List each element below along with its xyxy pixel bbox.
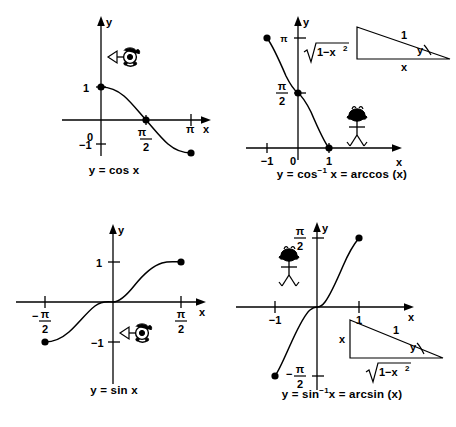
cos-point-pi2-0 (142, 116, 149, 123)
sin-ytick-1-label: 1 (96, 257, 102, 269)
arcsin-point-neg1-neg-pi2 (271, 372, 278, 379)
caption-sin: y = sin x (0, 384, 228, 396)
sin-x-axis-label: x (199, 306, 206, 318)
cos-point-0-1 (97, 83, 104, 90)
caption-arcsin-main: y = sin (282, 388, 320, 400)
cos-y-axis-label: y (106, 16, 113, 28)
arccos-triangle-hypotenuse-label: 1 (401, 29, 407, 41)
reclining-person-icon (120, 324, 152, 342)
arcsin-point-1-pi2 (355, 234, 362, 241)
standing-person-icon (279, 247, 299, 286)
plot-panel-cos: y x 0 1 −1 π 2 π (0, 0, 228, 214)
arccos-ytick-pi-numerator: π (278, 80, 287, 92)
arcsin-ytick-pi-numerator: π (296, 225, 305, 237)
cos-ytick-1-label: 1 (83, 82, 89, 94)
reclining-person-icon (108, 48, 140, 66)
arccos-sqrt-exponent: 2 (343, 44, 348, 53)
arcsin-triangle-hypotenuse-label: 1 (393, 324, 399, 336)
cos-plot-svg: y x 0 1 −1 π 2 π (0, 0, 228, 214)
arccos-ytick-pi-over-2-label: π 2 (276, 80, 288, 107)
arcsin-x-axis (236, 303, 414, 311)
arcsin-ytick-neg-pi-numerator: π (296, 363, 305, 375)
cos-xtick-pi-numerator: π (138, 126, 147, 138)
caption-cos: y = cos x (0, 164, 228, 176)
arcsin-xtick-neg1-label: −1 (269, 314, 282, 326)
arcsin-triangle-angle-label: y (410, 341, 417, 353)
caption-arccos-exponent: −1 (318, 166, 328, 175)
standing-person-icon (347, 107, 367, 146)
arcsin-sqrt-exponent: 2 (405, 364, 410, 373)
arcsin-triangle-vertical-label: x (339, 333, 346, 345)
sin-point-neg-pi2-neg1 (41, 338, 48, 345)
caption-arcsin-tail: x = arcsin (x) (329, 388, 402, 400)
sin-y-axis (109, 224, 117, 384)
caption-arccos-main: y = cos (277, 168, 318, 180)
arcsin-ytick-pi-over-2-label: π 2 (294, 225, 306, 252)
arccos-sqrt-radicand: 1−x (317, 46, 337, 58)
arccos-x-axis (246, 144, 402, 152)
sin-xtick-neg-sign: − (32, 310, 38, 322)
sin-y-axis-label: y (118, 224, 125, 236)
arccos-reference-triangle: 1 y x (357, 27, 450, 73)
arccos-y-axis-label: y (303, 16, 310, 28)
arccos-point-neg1-pi (263, 34, 270, 41)
sin-ytick-neg1-label: −1 (91, 337, 104, 349)
caption-arcsin: y = sin−1x = arcsin (x) (228, 386, 456, 400)
arccos-ytick-pi-label: π (280, 33, 288, 44)
cos-xtick-pi-over-2-label: π 2 (138, 126, 152, 153)
arcsin-ytick-2-denominator: 2 (297, 240, 303, 252)
arccos-triangle-base-label: x (401, 61, 408, 73)
arccos-ytick-2-denominator: 2 (279, 95, 285, 107)
caption-arccos: y = cos−1 x = arccos (x) (228, 166, 456, 180)
plot-panel-arccos: y x 0 π π 2 −1 1 1−x 2 (228, 0, 456, 214)
cos-xtick-pi-label: π (186, 123, 195, 135)
arccos-triangle-angle-label: y (417, 44, 424, 56)
arcsin-ytick-neg-sign: − (286, 368, 292, 380)
sin-xtick-neg-2-denominator: 2 (42, 323, 48, 335)
arcsin-sqrt-annotation: 1−x 2 (366, 363, 411, 382)
sin-xtick-pi-numerator: π (177, 308, 186, 320)
sin-xtick-pi-over-2-label: π 2 (175, 308, 187, 335)
arccos-point-0-pi2 (294, 89, 301, 96)
sin-xtick-neg-pi-numerator: π (41, 308, 50, 320)
caption-arcsin-exponent: −1 (319, 386, 329, 395)
arcsin-x-axis-label: x (408, 311, 415, 323)
arcsin-reference-triangle: 1 x y (339, 320, 443, 358)
caption-arccos-tail: x = arccos (x) (327, 168, 407, 180)
cos-xtick-2-denominator: 2 (143, 141, 149, 153)
arcsin-y-axis-label: y (322, 222, 329, 234)
arcsin-sqrt-radicand: 1−x (379, 366, 399, 378)
cos-point-pi-neg1 (187, 149, 194, 156)
sin-xtick-2-denominator: 2 (178, 323, 184, 335)
figure-sheet: y x 0 1 −1 π 2 π (0, 0, 456, 427)
cos-ytick-neg1-label: −1 (79, 139, 92, 151)
cos-x-axis-label: x (203, 123, 210, 135)
sin-xtick-neg-pi-over-2-label: − π 2 (32, 308, 51, 335)
arccos-sqrt-annotation: 1−x 2 (304, 43, 349, 62)
sin-point-pi2-1 (177, 258, 184, 265)
arccos-point-1-0 (325, 144, 332, 151)
arccos-plot-svg: y x 0 π π 2 −1 1 1−x 2 (228, 0, 456, 214)
